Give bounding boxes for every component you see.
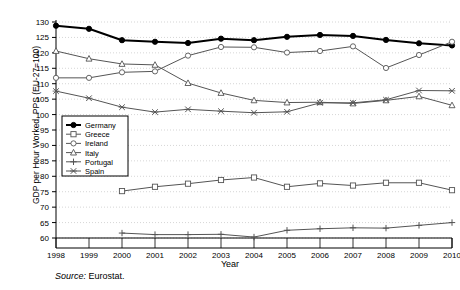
y-axis-tick-label: 80 — [40, 172, 49, 181]
data-point-marker — [350, 44, 355, 49]
data-point-marker — [71, 141, 76, 146]
data-point-marker — [350, 183, 355, 188]
data-point-marker — [383, 37, 388, 42]
legend-label: Ireland — [85, 139, 108, 148]
data-point-marker — [383, 65, 388, 70]
data-point-marker — [416, 41, 421, 46]
data-point-marker — [383, 180, 388, 185]
data-point-marker — [71, 132, 76, 137]
series-ireland — [53, 39, 454, 80]
legend-label: Spain — [85, 167, 104, 176]
y-axis-tick-label: 60 — [40, 234, 49, 243]
data-point-marker — [251, 175, 256, 180]
y-axis-tick-label: 105 — [36, 95, 50, 104]
data-point-marker — [416, 93, 422, 99]
data-point-marker — [284, 50, 289, 55]
data-point-marker — [185, 181, 190, 186]
source-text: Eurostat. — [89, 271, 125, 281]
chart-figure: GDP per Hour Worked, PPS (EU-27=100) 606… — [0, 0, 460, 290]
data-point-marker — [185, 80, 191, 86]
y-axis-tick-label: 75 — [40, 188, 49, 197]
data-point-marker — [119, 38, 124, 43]
data-point-marker — [317, 181, 322, 186]
data-point-marker — [218, 44, 223, 49]
data-point-marker — [53, 48, 59, 54]
data-point-marker — [218, 177, 223, 182]
data-point-marker — [86, 26, 91, 31]
chart-legend: GermanyGreeceIrelandItalyPortugalSpain — [62, 116, 128, 176]
y-axis-tick-label: 125 — [36, 33, 50, 42]
data-point-marker — [350, 33, 355, 38]
y-axis-tick-label: 100 — [36, 111, 50, 120]
data-point-marker — [416, 52, 421, 57]
legend-label: Germany — [85, 121, 116, 130]
y-axis-tick-label: 90 — [40, 141, 49, 150]
data-point-marker — [185, 53, 190, 58]
data-point-marker — [53, 23, 58, 28]
y-axis-tick-label: 85 — [40, 157, 49, 166]
y-axis-tick-label: 120 — [36, 49, 50, 58]
y-axis-tick-label: 110 — [36, 80, 49, 89]
data-point-marker — [251, 45, 256, 50]
source-caption: Source: Eurostat. — [55, 271, 125, 281]
data-point-marker — [152, 39, 157, 44]
data-point-marker — [218, 36, 223, 41]
y-axis-tick-label: 130 — [36, 18, 50, 27]
data-point-marker — [284, 34, 289, 39]
data-point-marker — [449, 39, 454, 44]
data-point-marker — [152, 69, 157, 74]
data-point-marker — [185, 40, 190, 45]
data-point-marker — [71, 122, 76, 127]
data-point-marker — [119, 188, 124, 193]
y-axis-tick-label: 115 — [36, 64, 49, 73]
source-prefix: Source: — [55, 271, 86, 281]
series-greece — [119, 175, 454, 194]
legend-label: Greece — [85, 130, 110, 139]
y-axis-tick-label: 70 — [40, 203, 49, 212]
chart-plot-area: 6065707580859095100105110115120125130199… — [0, 0, 460, 290]
data-point-marker — [53, 75, 58, 80]
data-point-marker — [251, 38, 256, 43]
data-point-marker — [119, 70, 124, 75]
data-point-marker — [317, 48, 322, 53]
data-point-marker — [449, 188, 454, 193]
y-axis-tick-label: 95 — [40, 126, 49, 135]
data-point-marker — [152, 184, 157, 189]
data-point-marker — [416, 180, 421, 185]
legend-label: Portugal — [85, 158, 113, 167]
data-point-marker — [317, 32, 322, 37]
series-italy — [53, 48, 455, 108]
data-point-marker — [284, 184, 289, 189]
y-axis-tick-label: 65 — [40, 219, 49, 228]
x-axis-title: Year — [0, 259, 460, 269]
data-point-marker — [86, 75, 91, 80]
legend-label: Italy — [85, 149, 99, 158]
